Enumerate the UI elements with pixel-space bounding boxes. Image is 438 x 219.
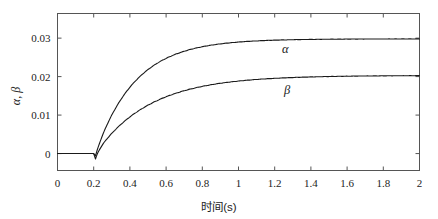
curve-label-beta: β — [284, 83, 290, 98]
x-tick-label: 1 — [236, 178, 242, 189]
y-tick-label: 0.03 — [0, 33, 51, 44]
y-axis-ticks — [58, 38, 420, 153]
curve-label-alpha: α — [282, 42, 289, 57]
x-tick-label: 0 — [55, 178, 61, 189]
x-tick-label: 2 — [417, 178, 423, 189]
x-axis-title: 时间(s) — [201, 198, 236, 214]
x-tick-label: 0.8 — [195, 178, 209, 189]
x-tick-label: 1.2 — [268, 178, 282, 189]
series-line-alpha — [58, 39, 420, 156]
x-tick-label: 0.4 — [123, 178, 137, 189]
x-axis-ticks — [58, 14, 420, 171]
y-tick-label: 0.01 — [0, 110, 51, 121]
x-tick-label: 1.6 — [340, 178, 354, 189]
y-tick-label: 0.02 — [0, 71, 51, 82]
y-axis-title: α, β — [9, 87, 24, 105]
plot-svg — [0, 0, 438, 219]
series-line-beta — [58, 76, 420, 159]
y-tick-label: 0 — [0, 148, 51, 159]
x-tick-label: 0.2 — [87, 178, 101, 189]
x-tick-label: 0.6 — [159, 178, 173, 189]
x-tick-label: 1.4 — [304, 178, 318, 189]
x-tick-label: 1.8 — [376, 178, 390, 189]
chart-figure: 00.20.40.60.811.21.41.61.82 00.010.020.0… — [0, 0, 438, 219]
plot-frame — [58, 14, 420, 171]
